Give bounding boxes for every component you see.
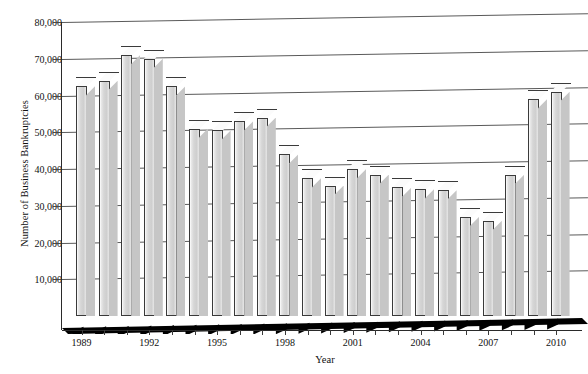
bar-side-face	[199, 129, 208, 316]
bar-side-face	[357, 169, 366, 316]
bar-front-face	[302, 178, 313, 316]
bar-side-face	[244, 121, 253, 316]
bar-side-face	[312, 178, 321, 316]
y-axis-line	[61, 22, 62, 330]
y-tick-mark	[53, 243, 61, 244]
bar-2004	[415, 189, 426, 316]
x-tick-label-1995: 1995	[195, 337, 239, 348]
y-tick-mark	[53, 22, 61, 23]
bar-2006	[460, 217, 471, 316]
bar-top-outline	[370, 166, 390, 177]
x-tick-mark	[127, 330, 128, 335]
business-bankruptcies-bar-chart: Number of Business Bankruptcies 10,00020…	[0, 0, 588, 374]
bar-side-face	[538, 99, 547, 316]
bar-side-face	[131, 55, 140, 316]
y-tick-mark	[53, 169, 61, 170]
x-tick-mark	[262, 330, 263, 335]
bar-2005	[438, 190, 449, 316]
bar-top-outline	[483, 212, 503, 223]
x-tick-mark	[375, 330, 376, 335]
bar-top-outline	[302, 169, 322, 180]
bar-front-face	[189, 129, 200, 316]
bar-front-face	[347, 169, 358, 316]
x-tick-mark	[217, 330, 218, 335]
bar-front-face	[528, 99, 539, 316]
x-tick-mark	[82, 330, 83, 335]
x-tick-mark	[556, 330, 557, 335]
bar-2000	[325, 186, 336, 316]
bar-side-face	[176, 86, 185, 316]
bar-front-face	[234, 121, 245, 316]
x-tick-mark	[421, 330, 422, 335]
bar-top-outline	[551, 83, 571, 94]
bar-front-face	[99, 81, 110, 316]
x-tick-mark	[534, 330, 535, 335]
x-tick-mark	[172, 330, 173, 335]
bar-top-outline	[438, 181, 458, 192]
y-tick-mark	[53, 132, 61, 133]
bar-1994	[189, 129, 200, 316]
bar-side-face	[222, 130, 231, 316]
x-tick-mark	[398, 330, 399, 335]
bar-top-outline	[166, 77, 186, 88]
x-tick-mark	[195, 330, 196, 335]
bar-front-face	[415, 189, 426, 316]
gridline	[62, 87, 588, 97]
bar-1998	[279, 154, 290, 316]
bar-1999	[302, 178, 313, 316]
bar-front-face	[438, 190, 449, 316]
bar-side-face	[335, 186, 344, 316]
bar-1990	[99, 81, 110, 316]
x-tick-mark	[353, 330, 354, 335]
bar-front-face	[392, 187, 403, 316]
bar-top-outline	[415, 180, 435, 191]
x-tick-mark	[330, 330, 331, 335]
bar-side-face	[470, 217, 479, 316]
bar-side-face	[493, 221, 502, 316]
y-tick-mark	[53, 279, 61, 280]
bar-top-outline	[528, 90, 548, 101]
bar-side-face	[86, 86, 95, 316]
bar-2009	[528, 99, 539, 316]
bar-front-face	[505, 175, 516, 316]
x-tick-mark	[488, 330, 489, 335]
bar-side-face	[109, 81, 118, 316]
x-tick-mark	[308, 330, 309, 335]
x-axis-title: Year	[62, 354, 588, 365]
bar-front-face	[121, 55, 132, 316]
x-tick-mark	[149, 330, 150, 335]
bar-top-outline	[144, 50, 164, 61]
bar-top-outline	[279, 145, 299, 156]
x-axis: Year 19891992199519982001200420072010	[62, 330, 588, 374]
bar-top-outline	[234, 112, 254, 123]
x-tick-label-2007: 2007	[466, 337, 510, 348]
bar-front-face	[144, 59, 155, 316]
bar-top-outline	[189, 120, 209, 131]
gridline	[62, 13, 588, 23]
x-tick-mark	[285, 330, 286, 335]
bar-side-face	[289, 154, 298, 316]
x-tick-mark	[104, 330, 105, 335]
bar-front-face	[212, 130, 223, 316]
bar-front-face	[166, 86, 177, 316]
x-tick-label-2001: 2001	[331, 337, 375, 348]
bar-1993	[166, 86, 177, 316]
bar-front-face	[76, 86, 87, 316]
bar-top-outline	[347, 160, 367, 171]
x-tick-mark	[443, 330, 444, 335]
bar-front-face	[551, 92, 562, 316]
bar-side-face	[154, 59, 163, 316]
bar-side-face	[425, 189, 434, 316]
bar-top-outline	[212, 121, 232, 132]
bar-front-face	[483, 221, 494, 316]
bar-side-face	[267, 118, 276, 316]
bar-1989	[76, 86, 87, 316]
bar-2007	[483, 221, 494, 316]
bar-1991	[121, 55, 132, 316]
bar-2010	[551, 92, 562, 316]
y-axis-labels: 10,00020,00030,00040,00050,00060,00070,0…	[0, 0, 62, 374]
bar-side-face	[561, 92, 570, 316]
x-tick-mark	[240, 330, 241, 335]
y-tick-mark	[53, 206, 61, 207]
bar-1997	[257, 118, 268, 316]
